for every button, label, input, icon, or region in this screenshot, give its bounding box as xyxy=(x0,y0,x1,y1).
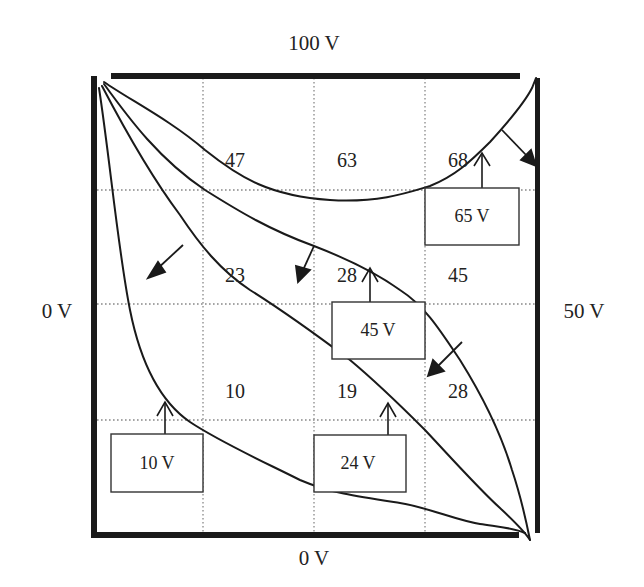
bottom-electrode xyxy=(91,532,519,538)
label-45v: 45 V xyxy=(360,320,395,340)
equipotential-label-boxes xyxy=(111,188,519,492)
value-r2c3: 45 xyxy=(448,264,468,286)
label-10v: 10 V xyxy=(139,453,174,473)
value-r3c2: 19 xyxy=(337,380,357,402)
value-r3c1: 10 xyxy=(225,380,245,402)
right-electrode-lower xyxy=(535,78,540,533)
value-r2c1: 23 xyxy=(225,264,245,286)
top-boundary-label: 100 V xyxy=(288,31,340,55)
value-r3c3: 28 xyxy=(448,380,468,402)
left-electrode-lower xyxy=(91,76,97,538)
label-65v: 65 V xyxy=(454,206,489,226)
arrow-head-icon xyxy=(296,266,310,282)
label-24v: 24 V xyxy=(340,453,375,473)
left-boundary-label: 0 V xyxy=(42,299,73,323)
right-boundary-label: 50 V xyxy=(563,299,604,323)
curve-65v xyxy=(104,78,536,201)
bottom-boundary-label: 0 V xyxy=(299,546,330,570)
value-r2c2: 28 xyxy=(337,264,357,286)
equipotential-diagram: 65 V 45 V 10 V 24 V 47 63 68 23 28 45 10… xyxy=(0,0,644,587)
value-r1c1: 47 xyxy=(225,149,245,171)
value-r1c2: 63 xyxy=(337,149,357,171)
value-r1c3: 68 xyxy=(448,149,468,171)
top-electrode xyxy=(111,73,520,79)
